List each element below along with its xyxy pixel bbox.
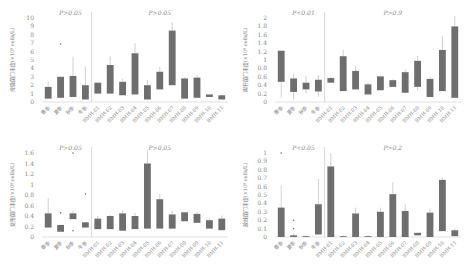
x-tick-label: 秋季 [297,104,309,116]
y-tick-label: 4 [30,64,34,71]
box-bar [45,213,52,227]
box-bar [169,214,176,228]
y-tick-label: 5 [30,56,34,63]
x-tick-label: 秋季 [297,239,309,251]
y-tick-label: 0.9 [257,157,267,164]
box-bar [70,213,77,219]
box-bar [144,164,151,229]
y-tick-label: 0 [263,98,267,105]
box-bar [427,79,434,97]
p-value-site: P>0.2 [382,144,402,151]
box-bar [194,78,201,98]
box-bar [315,204,322,234]
box-bar [315,80,322,92]
box-bar [132,216,139,229]
y-tick-label: 0.1 [257,225,267,232]
box-bar [107,65,114,94]
y-tick-label: 1.2 [257,48,267,55]
y-tick-label: 1 [30,181,34,188]
p-value-site: P>0.05 [148,144,172,151]
box-bar [389,80,396,87]
y-tick-label: 0.8 [257,64,267,71]
box-bar [303,83,310,90]
box-bar [365,84,372,94]
chart-panel-top-right: 拟杆菌门丰度(×10⁸ cells/L)00.20.40.60.811.21.4… [233,0,466,134]
box-bar [439,180,446,231]
box-bar [377,212,384,237]
y-tick-label: 1.4 [24,160,34,167]
box-bar [402,72,409,93]
box-bar [82,85,89,99]
box-bar [156,72,163,90]
outlier-point [85,193,87,195]
box-bar [206,94,213,97]
y-tick-label: 0.6 [257,73,267,80]
p-value-site: P>0.9 [382,9,402,16]
y-axis-label: 放线菌门丰度(×10⁸ cells/L) [242,163,249,228]
y-tick-label: 6 [30,48,34,55]
outlier-point [293,219,295,221]
x-tick-label: 春季 [40,239,52,251]
y-tick-label: 0.6 [24,202,34,209]
y-tick-label: 0.8 [24,191,34,198]
box-bar [169,31,176,86]
y-tick-label: 1 [263,56,267,63]
box-bar [181,78,188,98]
y-tick-label: 7 [30,39,34,46]
y-tick-label: 3 [30,73,34,80]
box-bar [352,213,359,237]
box-bar [70,76,77,97]
box-bar [451,26,458,97]
y-tick-label: 2 [263,14,267,21]
outlier-point [60,212,62,214]
y-tick-label: 0.2 [257,90,267,97]
y-tick-label: 1.4 [257,39,267,46]
y-axis-label: 变形菌门丰度(×10⁸ cells/L) [9,163,16,228]
box-bar [156,199,163,228]
p-value-season: P>0.05 [58,9,82,16]
y-tick-label: 1.2 [24,170,34,177]
box-bar [218,219,225,231]
box-bar [377,76,384,90]
box-bar [414,61,421,87]
box-bar [451,230,458,236]
x-tick-label: 夏季 [285,239,297,251]
box-bar [365,236,372,237]
y-tick-label: 0.8 [257,166,267,173]
chart-panel-bottom-left: 变形菌门丰度(×10⁸ cells/L)00.20.40.60.811.21.4… [0,135,233,269]
box-bar [389,194,396,237]
y-tick-label: 0.4 [257,81,267,88]
y-tick-label: 10 [26,14,34,21]
y-tick-label: 1.6 [24,149,34,156]
box-bar [107,216,114,229]
y-tick-label: 0.2 [257,216,267,223]
box-bar [278,51,285,82]
box-bar [439,50,446,91]
y-tick-label: 0 [30,233,34,240]
box-bar [57,77,64,98]
box-bar [132,53,139,94]
y-axis-label: 疣微菌门丰度(×10⁸ cells/L) [9,28,16,93]
outlier-point [72,230,74,232]
box-bar [181,212,188,221]
box-bar [278,208,285,237]
y-tick-label: 8 [30,31,34,38]
x-tick-label: 夏季 [52,239,64,251]
y-tick-label: 1 [263,149,267,156]
box-bar [144,85,151,99]
y-tick-label: 0.6 [257,183,267,190]
box-bar [340,236,347,237]
box-bar [94,83,101,94]
box-bar [194,214,201,223]
y-tick-label: 0.5 [257,191,267,198]
y-tick-label: 9 [30,22,34,29]
x-tick-label: 秋季 [64,239,76,251]
outlier-point [280,152,282,154]
p-value-site: P>0.05 [148,9,172,16]
box-bar [327,78,334,83]
p-value-season: P>0.05 [58,144,82,151]
box-bar [218,95,225,99]
outlier-point [72,152,74,154]
box-bar [402,211,409,237]
box-bar [327,166,334,237]
